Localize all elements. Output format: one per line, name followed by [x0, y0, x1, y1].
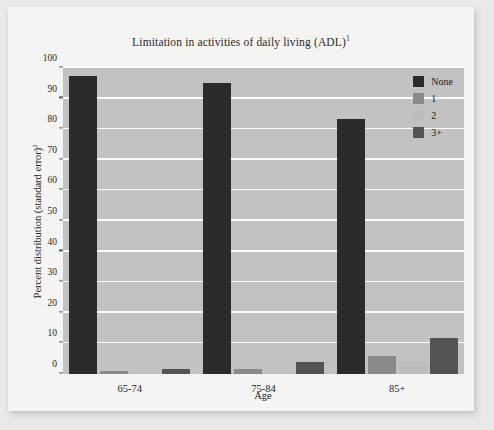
bar-85+-1	[368, 356, 396, 374]
chart-title-text: Limitation in activities of daily living…	[132, 36, 346, 48]
y-axis-tick-label: 80	[48, 114, 58, 124]
legend-swatch-2	[413, 110, 424, 121]
y-axis-tick-label: 20	[48, 298, 58, 308]
y-axis-tick-mark	[59, 66, 63, 67]
legend-item-2: 2	[413, 110, 453, 121]
legend-swatch-3+	[413, 127, 424, 138]
gridline	[63, 342, 464, 344]
chart-title: Limitation in activities of daily living…	[8, 34, 474, 48]
y-axis-label-superscript: 2	[31, 144, 39, 148]
y-axis-tick-mark	[59, 372, 63, 373]
y-axis-tick-label: 30	[48, 267, 58, 277]
x-axis-tick-label: 85+	[389, 383, 405, 394]
legend-swatch-1	[413, 93, 424, 104]
bar-65-74-3+	[162, 369, 190, 374]
gridline	[63, 128, 464, 130]
gridline	[63, 66, 464, 68]
y-axis-tick-mark	[59, 127, 63, 128]
bar-65-74-None	[69, 76, 97, 374]
gridline	[63, 97, 464, 99]
legend-label-None: None	[431, 76, 453, 87]
y-axis-tick-mark	[59, 158, 63, 159]
bar-75-84-2	[265, 373, 293, 374]
y-axis-tick-mark	[59, 342, 63, 343]
y-axis-tick-label: 60	[48, 175, 58, 185]
bar-75-84-None	[203, 83, 231, 374]
gridline	[63, 158, 464, 160]
x-axis-tick-label: 65-74	[118, 383, 143, 394]
y-axis-tick-label: 10	[48, 328, 58, 338]
plot-area: 0102030405060708090100 65-7475-8485+ Non…	[63, 68, 464, 374]
legend-item-None: None	[413, 76, 453, 87]
figure-page-card: Limitation in activities of daily living…	[8, 7, 474, 411]
y-axis-tick-label: 70	[48, 145, 58, 155]
bar-chart-figure: Limitation in activities of daily living…	[8, 7, 474, 411]
y-axis-tick-label: 40	[48, 237, 58, 247]
bar-65-74-1	[100, 371, 128, 374]
y-axis-tick-mark	[59, 219, 63, 220]
bar-85+-2	[399, 362, 427, 374]
gridline	[63, 250, 464, 252]
gridline	[63, 189, 464, 191]
legend-label-3+: 3+	[431, 127, 442, 138]
legend-label-1: 1	[431, 93, 436, 104]
bar-65-74-2	[131, 373, 159, 374]
x-axis-tick-label: 75-84	[251, 383, 276, 394]
y-axis-tick-label: 100	[43, 53, 57, 63]
gridline	[63, 219, 464, 221]
legend-item-3+: 3+	[413, 127, 453, 138]
y-axis-tick-mark	[59, 311, 63, 312]
bar-75-84-3+	[296, 362, 324, 374]
chart-title-superscript: 1	[346, 34, 350, 43]
y-axis-label-text: Percent distribution (standard error)	[32, 148, 43, 299]
legend-swatch-None	[413, 76, 424, 87]
bar-85+-3+	[430, 338, 458, 374]
chart-legend: None123+	[413, 76, 453, 138]
y-axis-tick-label: 90	[48, 84, 58, 94]
gridline	[63, 311, 464, 313]
y-axis-label: Percent distribution (standard error)2	[31, 106, 44, 336]
legend-label-2: 2	[431, 110, 436, 121]
gridline	[63, 281, 464, 283]
y-axis-tick-mark	[59, 97, 63, 98]
y-axis-tick-mark	[59, 280, 63, 281]
y-axis-tick-label: 50	[48, 206, 58, 216]
y-axis-tick-label: 0	[52, 359, 57, 369]
bar-75-84-1	[234, 369, 262, 374]
bar-85+-None	[337, 119, 365, 375]
y-axis-tick-mark	[59, 189, 63, 190]
legend-item-1: 1	[413, 93, 453, 104]
y-axis-tick-mark	[59, 250, 63, 251]
